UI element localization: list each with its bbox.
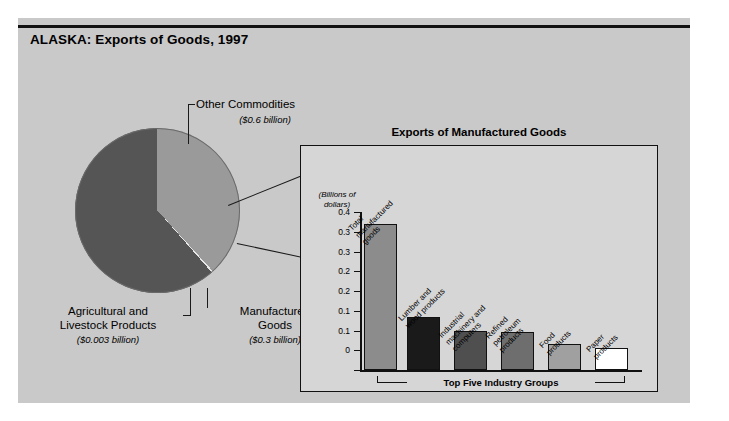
y-axis-tick <box>354 271 360 272</box>
y-axis-tick-label: 0.2 <box>318 266 350 276</box>
y-axis-tick <box>354 252 360 253</box>
bar <box>364 224 397 370</box>
inset-title: Exports of Manufactured Goods <box>300 126 658 138</box>
page-title: ALASKA: Exports of Goods, 1997 <box>30 32 248 47</box>
y-axis-tick-label: 0.4 <box>318 207 350 217</box>
y-axis-tick <box>354 370 360 371</box>
y-axis-tick <box>354 350 360 351</box>
title-rule <box>18 25 690 28</box>
y-axis-tick-label: 0.2 <box>318 286 350 296</box>
leader-line-agri <box>190 288 191 316</box>
pie-label-other-amount: ($0.6 billion) <box>196 113 334 127</box>
inset-bar-chart: (Billions of dollars) 0.40.30.30.20.20.1… <box>300 145 658 392</box>
y-axis-tick-label: 0.1 <box>318 306 350 316</box>
leader-line-other <box>188 104 189 144</box>
leader-line-other-foot <box>188 104 195 105</box>
pie-chart <box>75 128 240 293</box>
y-axis-tick <box>354 311 360 312</box>
industry-groups-bracket: Top Five Industry Groups <box>377 376 625 388</box>
y-axis-tick-label: 0.1 <box>318 326 350 336</box>
y-axis-tick <box>354 291 360 292</box>
y-axis-tick <box>354 331 360 332</box>
y-axis-tick-label: 0.3 <box>318 227 350 237</box>
pie-label-other-commodities: Other Commodities ($0.6 billion) <box>196 98 356 126</box>
pie-label-agri-name: Agricultural and Livestock Products <box>60 305 157 331</box>
pie-label-other-name: Other Commodities <box>196 98 295 110</box>
pie-label-agricultural-livestock: Agricultural and Livestock Products ($0.… <box>28 305 188 347</box>
y-axis-tick-label: 0 <box>318 345 350 355</box>
pie-slices <box>75 128 240 293</box>
x-axis-line <box>360 370 642 372</box>
y-axis-tick-label: 0.3 <box>318 247 350 257</box>
leader-line-manu <box>207 288 208 308</box>
bar-series: Total manufactured goodsLumber and wood … <box>362 212 642 370</box>
pie-label-agri-amount: ($0.003 billion) <box>28 333 188 347</box>
bracket-label: Top Five Industry Groups <box>377 377 625 388</box>
